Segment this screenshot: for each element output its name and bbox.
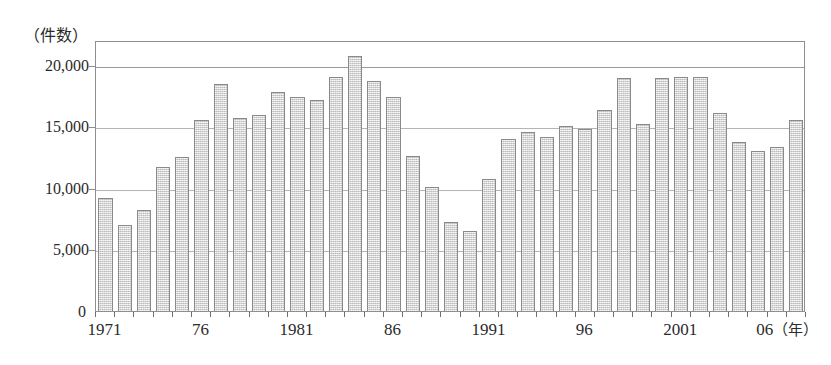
y-tick-label-5000: 5,000	[3, 242, 89, 258]
x-tick-label-1991: 1991	[471, 320, 505, 340]
bar-1993	[521, 132, 535, 311]
bar-1979	[252, 115, 266, 311]
bar-2001	[674, 77, 688, 311]
x-tick	[709, 312, 710, 317]
bar-1997	[597, 110, 611, 311]
bar-1983	[329, 77, 343, 311]
y-tick-label-10000: 10,000	[3, 181, 89, 197]
x-axis-unit-label: （年）	[773, 322, 818, 338]
x-tick	[229, 312, 230, 317]
x-tick	[747, 312, 748, 317]
bar-2004	[732, 142, 746, 311]
x-tick-label-1971: 1971	[88, 320, 122, 340]
x-tick	[786, 312, 787, 317]
x-tick	[805, 312, 806, 317]
x-tick-label-1986: 86	[384, 320, 401, 340]
bar-1988	[425, 187, 439, 311]
x-tick-label-2001: 2001	[663, 320, 697, 340]
x-tick	[95, 312, 96, 317]
bar-1989	[444, 222, 458, 311]
bar-1981	[290, 97, 304, 311]
bar-1987	[406, 156, 420, 311]
bar-1986	[386, 97, 400, 311]
bar-2006	[770, 147, 784, 311]
x-tick	[402, 312, 403, 317]
bar-2002	[693, 77, 707, 311]
x-tick	[536, 312, 537, 317]
x-tick	[287, 312, 288, 317]
x-tick-label-2006: 06（年）	[756, 320, 818, 340]
x-tick	[172, 312, 173, 317]
x-tick	[306, 312, 307, 317]
bar-1976	[194, 120, 208, 311]
bar-1972	[118, 225, 132, 311]
bar-1973	[137, 210, 151, 311]
bar-1975	[175, 157, 189, 311]
x-tick-label-1976: 76	[192, 320, 209, 340]
x-tick	[249, 312, 250, 317]
bar-2007	[789, 120, 803, 311]
x-tick	[613, 312, 614, 317]
x-tick	[421, 312, 422, 317]
x-tick	[651, 312, 652, 317]
x-axis-tick-labels: 197176198186199196200106（年）	[0, 320, 831, 354]
x-tick	[153, 312, 154, 317]
bar-1994	[540, 137, 554, 311]
bar-1977	[214, 84, 228, 311]
y-tick-label-15000: 15,000	[3, 119, 89, 135]
x-axis-ticks	[95, 312, 805, 318]
bar-1980	[271, 92, 285, 311]
bar-1996	[578, 129, 592, 311]
x-tick	[114, 312, 115, 317]
x-tick	[632, 312, 633, 317]
x-tick	[479, 312, 480, 317]
bar-1991	[482, 179, 496, 311]
x-tick-label-1981: 1981	[279, 320, 313, 340]
bars	[96, 42, 804, 311]
bar-1990	[463, 231, 477, 311]
bar-1998	[617, 78, 631, 311]
bar-1999	[636, 124, 650, 311]
x-tick	[767, 312, 768, 317]
bar-chart: （件数） 20,00015,00010,0005,000 0 197176198…	[0, 0, 831, 365]
x-tick	[364, 312, 365, 317]
x-tick	[594, 312, 595, 317]
x-tick	[575, 312, 576, 317]
x-tick-label-1996: 96	[576, 320, 593, 340]
bar-1992	[501, 139, 515, 311]
bar-1995	[559, 126, 573, 311]
x-tick	[498, 312, 499, 317]
x-tick	[517, 312, 518, 317]
bar-2000	[655, 78, 669, 311]
y-axis-tick-labels: 20,00015,00010,0005,000	[0, 41, 89, 312]
x-tick	[728, 312, 729, 317]
bar-1978	[233, 118, 247, 311]
x-tick	[344, 312, 345, 317]
bar-2003	[713, 113, 727, 311]
bar-1982	[310, 100, 324, 311]
y-axis-tick-label-zero: 0	[0, 304, 86, 320]
bar-2005	[751, 151, 765, 311]
bar-1984	[348, 56, 362, 311]
x-tick	[383, 312, 384, 317]
x-tick	[133, 312, 134, 317]
plot-area	[95, 41, 805, 312]
x-tick	[690, 312, 691, 317]
y-tick-label-20000: 20,000	[3, 58, 89, 74]
x-tick	[460, 312, 461, 317]
x-tick	[268, 312, 269, 317]
x-tick	[325, 312, 326, 317]
x-tick	[671, 312, 672, 317]
bar-1974	[156, 167, 170, 311]
bar-1971	[98, 198, 112, 311]
x-tick	[210, 312, 211, 317]
x-tick	[191, 312, 192, 317]
x-tick	[556, 312, 557, 317]
x-tick	[440, 312, 441, 317]
bar-1985	[367, 81, 381, 311]
